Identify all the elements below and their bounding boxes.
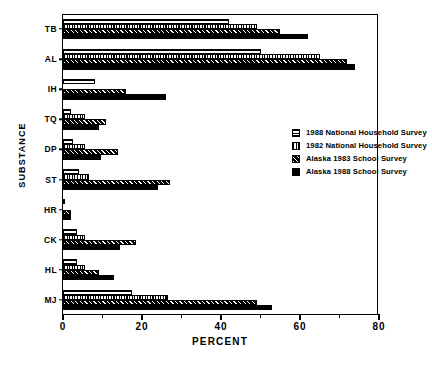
bar <box>63 125 99 130</box>
y-tick-label-ck: CK <box>44 235 57 245</box>
legend-label: Alaska 1983 School Survey <box>306 154 407 163</box>
bar <box>63 155 101 160</box>
bar <box>63 275 114 280</box>
bar <box>63 199 65 204</box>
y-tick-label-dp: DP <box>44 144 57 154</box>
x-tick-label-40: 40 <box>214 321 227 332</box>
bar-group <box>63 199 377 220</box>
y-tick-label-ih: IH <box>48 84 57 94</box>
y-tick-mark <box>59 239 63 240</box>
bar <box>63 34 308 39</box>
y-tick-label-tq: TQ <box>44 114 57 124</box>
y-tick-mark <box>59 179 63 180</box>
x-minor-tick-mark <box>181 314 182 318</box>
y-tick-label-hr: HR <box>44 205 57 215</box>
legend-swatch-icon <box>292 168 300 176</box>
bar-group <box>63 229 377 250</box>
y-tick-label-tb: TB <box>45 24 57 34</box>
x-tick-mark <box>62 314 63 320</box>
bar <box>63 215 71 220</box>
x-tick-mark <box>378 314 379 320</box>
chart-legend: 1988 National Household Survey1982 Natio… <box>292 126 432 178</box>
legend-item: Alaska 1983 School Survey <box>292 152 432 165</box>
bar <box>63 79 95 84</box>
x-tick-mark <box>220 314 221 320</box>
y-tick-mark <box>59 28 63 29</box>
x-axis-label: PERCENT <box>62 336 378 347</box>
y-tick-label-st: ST <box>45 175 57 185</box>
x-tick-label-0: 0 <box>60 321 67 332</box>
y-axis-label: SUBSTANCE <box>17 95 27 215</box>
x-minor-tick-mark <box>339 314 340 318</box>
legend-swatch-icon <box>292 142 300 150</box>
legend-swatch-icon <box>292 129 300 137</box>
bar-group <box>63 259 377 280</box>
y-tick-mark <box>59 119 63 120</box>
bar <box>63 245 120 250</box>
y-tick-label-hl: HL <box>45 265 57 275</box>
y-tick-mark <box>59 149 63 150</box>
x-tick-mark <box>141 314 142 320</box>
y-tick-label-mj: MJ <box>44 295 57 305</box>
y-tick-label-al: AL <box>45 54 57 64</box>
y-tick-mark <box>59 209 63 210</box>
bar <box>63 305 272 310</box>
y-tick-mark <box>59 269 63 270</box>
legend-label: 1982 National Household Survey <box>306 141 427 150</box>
bar <box>63 64 355 69</box>
bar-group <box>63 19 377 40</box>
y-tick-mark <box>59 299 63 300</box>
legend-label: 1988 National Household Survey <box>306 128 427 137</box>
bar <box>63 185 158 190</box>
plot-area: TBALIHTQDPSTHRCKHLMJ 020406080 1988 Nati… <box>62 14 378 315</box>
x-minor-tick-mark <box>260 314 261 318</box>
y-tick-mark <box>59 58 63 59</box>
legend-swatch-icon <box>292 155 300 163</box>
x-minor-tick-mark <box>102 314 103 318</box>
bar-group <box>63 290 377 311</box>
y-tick-mark <box>59 89 63 90</box>
x-tick-label-60: 60 <box>293 321 306 332</box>
x-tick-mark <box>299 314 300 320</box>
x-tick-label-20: 20 <box>135 321 148 332</box>
bar-group <box>63 79 377 100</box>
legend-label: Alaska 1988 School Survey <box>306 167 407 176</box>
bar <box>63 94 166 99</box>
x-tick-label-80: 80 <box>372 321 385 332</box>
chart-title <box>55 0 385 11</box>
legend-item: 1982 National Household Survey <box>292 139 432 152</box>
legend-item: 1988 National Household Survey <box>292 126 432 139</box>
legend-item: Alaska 1988 School Survey <box>292 165 432 178</box>
bar-group <box>63 49 377 70</box>
